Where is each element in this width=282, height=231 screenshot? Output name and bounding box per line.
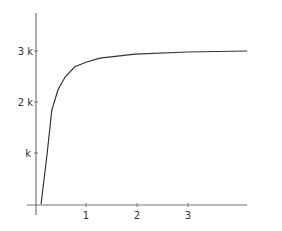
x-tick-label: 1: [83, 210, 89, 221]
chart: k 2 k 3 k 1 2 3: [0, 0, 282, 231]
x-axis: 1 2 3: [27, 203, 247, 221]
y-tick-label: 3 k: [18, 46, 34, 57]
x-tick-label: 2: [134, 210, 140, 221]
y-tick-label: 2 k: [18, 97, 34, 108]
x-tick-label: 3: [185, 210, 191, 221]
data-line: [41, 51, 247, 204]
y-tick-label: k: [25, 148, 31, 159]
y-axis: k 2 k 3 k: [18, 13, 38, 215]
